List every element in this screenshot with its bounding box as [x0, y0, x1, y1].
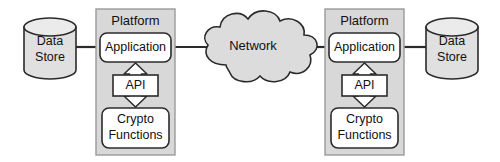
right-platform-title: Platform — [340, 13, 388, 28]
right-platform[interactable]: Platform Application API Crypto Function… — [325, 9, 404, 155]
right-crypto-functions-label-line2: Functions — [337, 128, 391, 142]
left-data-store[interactable]: Data Store — [24, 18, 76, 79]
right-crypto-functions-node[interactable]: Crypto Functions — [331, 108, 398, 148]
left-crypto-functions-label-line2: Functions — [108, 128, 162, 142]
left-api-label: API — [125, 78, 145, 92]
left-data-store-label-line1: Data — [37, 34, 63, 48]
right-data-store-label-line1: Data — [439, 34, 465, 48]
left-application-node[interactable]: Application — [100, 33, 171, 62]
right-data-store-top — [426, 18, 478, 36]
network-cloud[interactable]: Network — [205, 11, 317, 82]
right-application-label: Application — [334, 40, 395, 54]
right-application-node[interactable]: Application — [329, 33, 400, 62]
left-crypto-functions-label-line1: Crypto — [117, 112, 154, 126]
right-data-store[interactable]: Data Store — [426, 18, 478, 79]
left-platform-title: Platform — [111, 13, 159, 28]
left-data-store-label-line2: Store — [35, 50, 65, 64]
right-crypto-functions-label-line1: Crypto — [346, 112, 383, 126]
right-api-label: API — [354, 78, 374, 92]
left-api-node[interactable]: API — [113, 75, 158, 96]
right-api-node[interactable]: API — [342, 75, 387, 96]
architecture-diagram: Data Store Platform Application API — [0, 0, 500, 162]
left-crypto-functions-node[interactable]: Crypto Functions — [102, 108, 169, 148]
right-data-store-label-line2: Store — [437, 50, 467, 64]
left-data-store-top — [24, 18, 76, 36]
diagram-canvas: Data Store Platform Application API — [0, 0, 500, 162]
left-platform[interactable]: Platform Application API Crypto Function… — [96, 9, 175, 155]
network-label: Network — [229, 38, 277, 53]
left-application-label: Application — [105, 40, 166, 54]
